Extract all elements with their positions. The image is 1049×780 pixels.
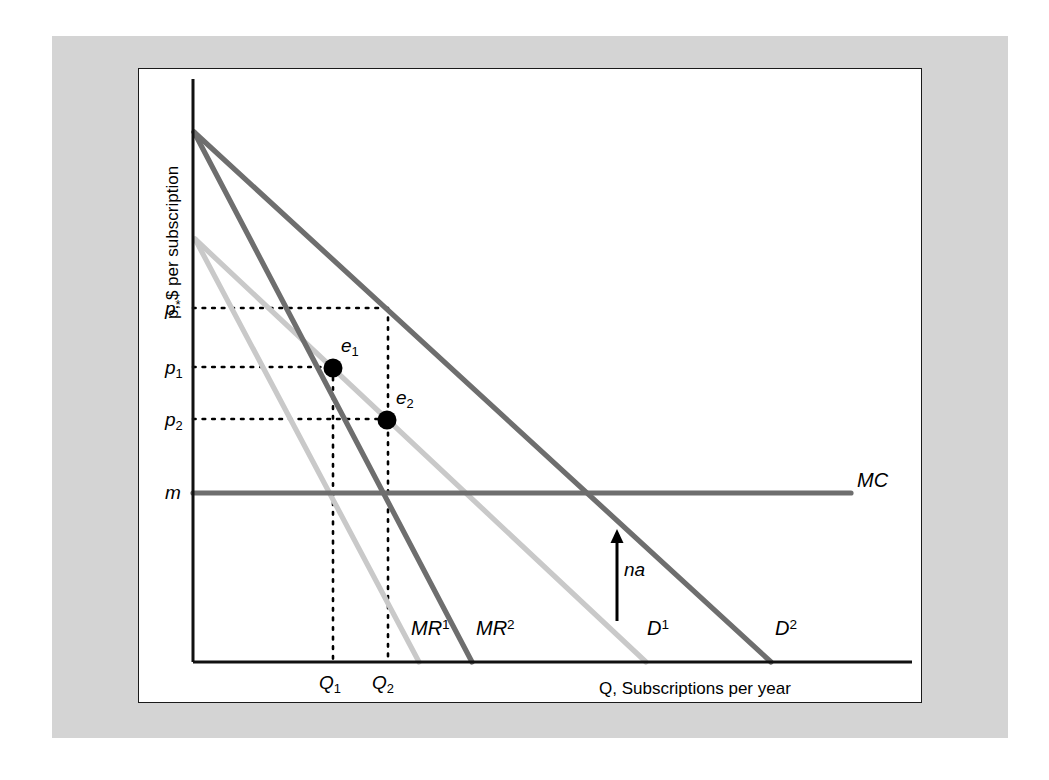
y-tick-p1: p1 — [165, 357, 183, 381]
shift-arrow-head — [611, 529, 624, 543]
chart-canvas — [139, 69, 923, 704]
y-tick-p-star: p* — [165, 297, 181, 320]
curve-mr — [195, 239, 419, 662]
equilibrium-point-1-dot — [324, 359, 343, 378]
x-tick-q2: Q2 — [372, 672, 394, 696]
equilibrium-point-2-dot — [378, 411, 397, 430]
curve-label-mr2: MR2 — [476, 617, 515, 640]
curve-label-mr1: MR1 — [411, 617, 450, 640]
curve-d — [195, 239, 646, 662]
y-tick-p2: p2 — [165, 409, 183, 433]
x-axis-title: Q, Subscriptions per year — [599, 679, 791, 699]
point-label-e2: e2 — [396, 387, 414, 411]
point-label-e1: e1 — [341, 335, 359, 359]
shift-arrow-label: na — [624, 559, 645, 581]
curve-label-d2: D2 — [775, 617, 797, 640]
chart-panel: p, $ per subscription Q, Subscriptions p… — [138, 68, 922, 703]
curve-label-mc: MC — [857, 469, 888, 492]
curve-label-d1: D1 — [647, 617, 669, 640]
y-tick-m: m — [165, 482, 181, 504]
figure-root: p, $ per subscription Q, Subscriptions p… — [0, 0, 1049, 780]
x-tick-q1: Q1 — [319, 672, 341, 696]
